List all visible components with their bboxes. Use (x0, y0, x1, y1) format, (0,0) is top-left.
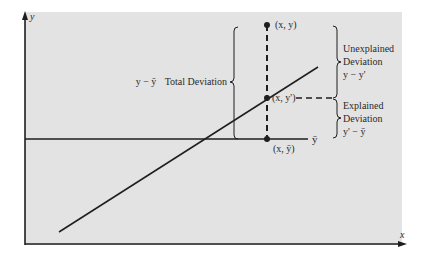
mean-point (264, 136, 270, 142)
regression-deviation-diagram: y x ȳ (x, y) (x, y') (x, ȳ) y − ȳ Total … (0, 0, 428, 254)
explained-line2: Deviation (343, 113, 382, 124)
explained-line1: Explained (343, 100, 384, 111)
predicted-point (264, 95, 270, 101)
x-axis-label: x (399, 229, 405, 240)
observed-point (264, 22, 270, 28)
unexplained-expr: y − y' (343, 69, 366, 80)
unexplained-line2: Deviation (343, 56, 382, 67)
mean-line-label: ȳ (312, 133, 318, 145)
observed-point-label: (x, y) (275, 19, 297, 31)
y-axis-label: y (29, 11, 35, 22)
mean-point-label: (x, ȳ) (273, 143, 295, 155)
explained-expr: y' − ȳ (343, 126, 365, 137)
total-deviation-text: y − ȳ Total Deviation (136, 76, 227, 87)
unexplained-line1: Unexplained (343, 43, 394, 54)
total-deviation-expr: y − ȳ (136, 76, 157, 87)
x-axis-arrow-icon (398, 241, 407, 247)
predicted-point-label: (x, y') (272, 92, 295, 104)
total-deviation-label: Total Deviation (165, 76, 227, 87)
